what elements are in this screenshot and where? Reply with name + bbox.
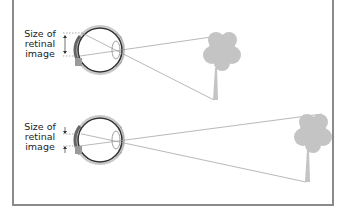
retinal-image-label-far: Size of retinal image xyxy=(17,122,63,152)
label-line: image xyxy=(17,142,63,152)
near-panel xyxy=(63,26,241,100)
eye-icon xyxy=(75,116,124,164)
far-panel xyxy=(63,114,332,182)
label-line: image xyxy=(17,49,63,59)
tree-near-icon xyxy=(203,32,241,100)
retinal-image-label-near: Size of retinal image xyxy=(17,29,63,59)
tree-far-icon xyxy=(294,114,332,182)
